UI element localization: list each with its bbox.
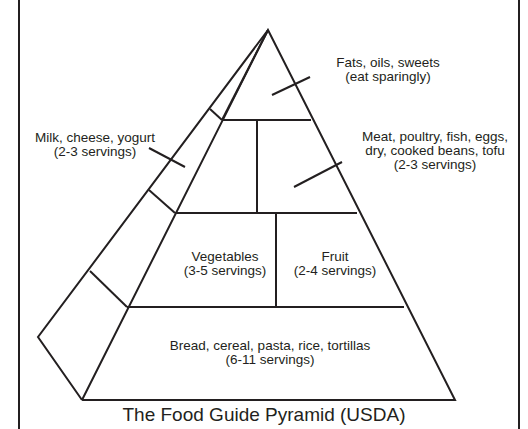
label-fats-name: Fats, oils, sweets [318, 56, 458, 70]
leader-meat [294, 162, 342, 187]
label-milk-name: Milk, cheese, yogurt [20, 131, 170, 145]
label-bread: Bread, cereal, pasta, rice, tortillas (6… [165, 339, 375, 367]
label-milk: Milk, cheese, yogurt (2-3 servings) [20, 131, 170, 159]
label-vegetables: Vegetables (3-5 servings) [175, 250, 275, 278]
side-cross-2 [149, 190, 175, 213]
label-meat-servings: (2-3 servings) [350, 158, 520, 172]
side-cross-1 [210, 109, 222, 120]
leader-fats [272, 77, 310, 95]
diagram-frame: Fats, oils, sweets (eat sparingly) Milk,… [0, 0, 528, 429]
label-milk-servings: (2-3 servings) [20, 145, 170, 159]
label-fruit: Fruit (2-4 servings) [285, 250, 385, 278]
label-fruit-name: Fruit [285, 250, 385, 264]
label-bread-servings: (6-11 servings) [165, 353, 375, 367]
label-vegetables-name: Vegetables [175, 250, 275, 264]
label-meat-line1: Meat, poultry, fish, eggs, [350, 130, 520, 144]
side-cross-3 [90, 271, 127, 307]
label-meat: Meat, poultry, fish, eggs, dry, cooked b… [350, 130, 520, 172]
label-fruit-servings: (2-4 servings) [285, 264, 385, 278]
label-fats: Fats, oils, sweets (eat sparingly) [318, 56, 458, 84]
label-fats-servings: (eat sparingly) [318, 70, 458, 84]
label-bread-name: Bread, cereal, pasta, rice, tortillas [165, 339, 375, 353]
label-vegetables-servings: (3-5 servings) [175, 264, 275, 278]
label-meat-line2: dry, cooked beans, tofu [350, 144, 520, 158]
side-inner-edge [222, 30, 268, 120]
diagram-title: The Food Guide Pyramid (USDA) [0, 404, 528, 426]
